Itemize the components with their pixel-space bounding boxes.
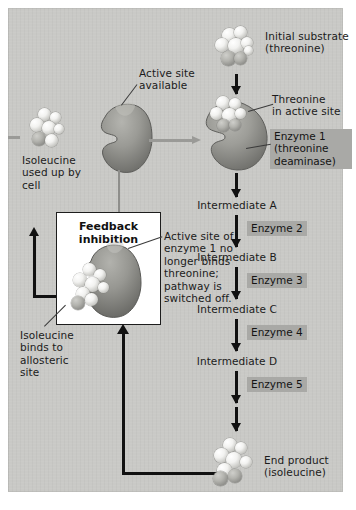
arrow-shaft-isoleucine-used-up bbox=[33, 236, 36, 298]
isoleucine-used-up-molecule bbox=[28, 108, 72, 152]
threonine-in-active-site-molecule bbox=[208, 96, 254, 138]
diagram-panel: Initial substrate (threonine) bbox=[8, 8, 343, 492]
label-threonine-in-active-site: Threonine in active site bbox=[272, 93, 356, 118]
arrow-b-to-c bbox=[230, 267, 242, 299]
label-intermediate-d: Intermediate D bbox=[184, 355, 290, 367]
arrow-elbow-isoleucine-used-up bbox=[33, 295, 59, 298]
arrow-to-end-product bbox=[230, 407, 242, 431]
arrow-enzyme-state-transition bbox=[149, 136, 201, 145]
label-initial-substrate: Initial substrate (threonine) bbox=[265, 30, 353, 55]
feedback-arrow-vertical bbox=[122, 333, 125, 475]
chip-enzyme-3: Enzyme 3 bbox=[247, 273, 307, 288]
arrow-d-to-product bbox=[230, 371, 242, 403]
arrow-enzyme1-to-intermediate-a bbox=[230, 173, 242, 197]
label-intermediate-c: Intermediate C bbox=[184, 303, 290, 315]
chip-enzyme-1: Enzyme 1 (threonine deaminase) bbox=[270, 129, 352, 169]
label-isoleucine-used-up: Isoleucine used up by cell bbox=[22, 154, 100, 191]
connector-enzyme-to-feedback-box bbox=[118, 170, 120, 214]
label-isoleucine-binds-allosteric: Isoleucine binds to allosteric site bbox=[20, 329, 82, 379]
arrow-c-to-d bbox=[230, 319, 242, 351]
label-active-site-available: Active site available bbox=[139, 67, 209, 92]
arrowhead-isoleucine-used-up bbox=[29, 227, 39, 236]
label-end-product: End product (isoleucine) bbox=[264, 454, 350, 479]
enzyme-1-active-site-available bbox=[96, 103, 154, 173]
feedback-inhibition-card: Feedback inhibition bbox=[56, 212, 161, 325]
arrow-a-to-b bbox=[230, 215, 242, 247]
chip-enzyme-4: Enzyme 4 bbox=[247, 325, 307, 340]
isoleucine-at-allosteric-site-molecule bbox=[69, 263, 117, 315]
arrow-substrate-to-enzyme1 bbox=[230, 74, 242, 94]
label-intermediate-b: Intermediate B bbox=[184, 251, 290, 263]
chip-enzyme-5: Enzyme 5 bbox=[247, 377, 307, 392]
label-intermediate-a: Intermediate A bbox=[184, 199, 290, 211]
chip-enzyme-2: Enzyme 2 bbox=[247, 221, 307, 236]
end-product-molecule bbox=[211, 438, 261, 490]
connector-gray-from-left bbox=[8, 136, 20, 139]
initial-substrate-molecule bbox=[214, 26, 260, 72]
